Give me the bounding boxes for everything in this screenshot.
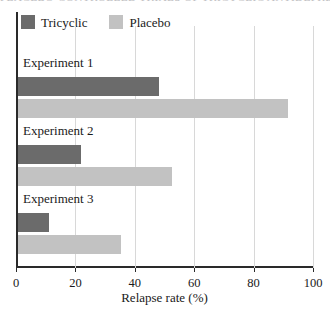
gridline: [313, 26, 314, 268]
bar-tricyclic: [18, 145, 82, 164]
plot-area: 020406080100 Experiment 1Experiment 2Exp…: [16, 12, 313, 268]
x-tick-label: 80: [247, 276, 260, 291]
bar-tricyclic: [18, 213, 49, 232]
group-label: Experiment 3: [23, 192, 93, 205]
tick-mark: [194, 268, 195, 272]
gridline: [194, 26, 195, 268]
x-tick-label: 40: [129, 276, 142, 291]
tick-mark: [313, 268, 314, 272]
chart-title: PLACEBO-CONTROLLED TRIALS OF TRICYCLIC A…: [0, 0, 330, 3]
bar-placebo: [18, 99, 288, 118]
x-tick-label: 20: [69, 276, 82, 291]
x-tick-label: 0: [13, 276, 19, 291]
tick-mark: [75, 268, 76, 272]
x-tick-label: 100: [304, 276, 323, 291]
x-axis-label: Relapse rate (%): [16, 290, 313, 306]
bar-placebo: [18, 167, 172, 186]
gridline: [254, 26, 255, 268]
x-tick-label: 60: [188, 276, 201, 291]
bar-tricyclic: [18, 77, 159, 96]
x-axis-line: [16, 266, 313, 268]
tick-mark: [254, 268, 255, 272]
chart-figure: PLACEBO-CONTROLLED TRIALS OF TRICYCLIC A…: [0, 0, 330, 310]
group-label: Experiment 2: [23, 124, 93, 137]
group-label: Experiment 1: [23, 56, 93, 69]
tick-mark: [135, 268, 136, 272]
tick-mark: [16, 268, 17, 272]
bar-placebo: [18, 235, 122, 254]
gridline: [135, 26, 136, 268]
